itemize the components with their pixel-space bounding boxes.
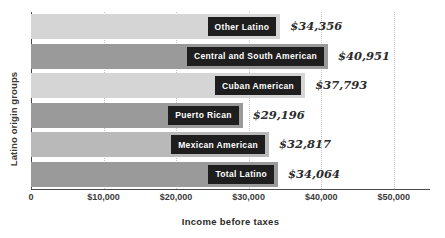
x-axis-tick-label: 0 (28, 192, 33, 202)
x-axis-tick-label: $30,000 (232, 192, 265, 202)
bar-value-label: $34,356 (290, 16, 342, 36)
bar-category-label: Central and South American (187, 47, 324, 66)
x-axis-tick-label: $40,000 (305, 192, 338, 202)
bar-row: Cuban American$37,793 (31, 73, 430, 98)
bar-value-label: $34,064 (288, 164, 340, 184)
bar-category-label: Total Latino (208, 165, 274, 184)
bar-row: Mexican American$32,817 (31, 132, 430, 157)
bar-value-label: $32,817 (279, 134, 331, 154)
x-axis-tick-label: $10,000 (87, 192, 120, 202)
bar-row: Other Latino$34,356 (31, 14, 430, 39)
bar-value-label: $40,951 (338, 46, 390, 66)
bar-category-label: Cuban American (215, 76, 301, 95)
x-axis-tick-label: $20,000 (160, 192, 193, 202)
y-axis-title: Latino origin groups (0, 0, 26, 238)
bar-value-label: $29,196 (253, 105, 305, 125)
x-axis-tick-label: $50,000 (377, 192, 410, 202)
bar-row: Puerto Rican$29,196 (31, 103, 430, 128)
bars-group: Other Latino$34,356Central and South Ame… (31, 12, 430, 189)
bar-row: Total Latino$34,064 (31, 162, 430, 187)
bar-category-label: Mexican American (171, 135, 265, 154)
bar-category-label: Puerto Rican (168, 106, 239, 125)
x-axis-line (31, 189, 430, 190)
x-axis-title: Income before taxes (31, 216, 430, 227)
bar-chart: Latino origin groups Other Latino$34,356… (0, 0, 445, 238)
bar-row: Central and South American$40,951 (31, 44, 430, 69)
bar-value-label: $37,793 (315, 75, 367, 95)
plot-area: Other Latino$34,356Central and South Ame… (31, 12, 430, 190)
bar-category-label: Other Latino (208, 17, 277, 36)
